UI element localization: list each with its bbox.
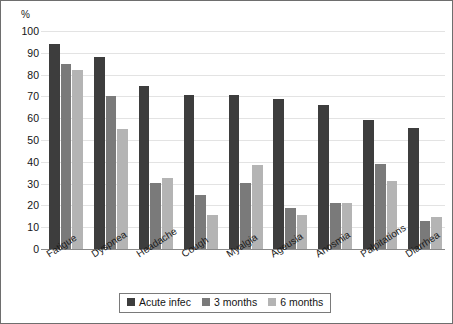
- legend-swatch-icon-1: [127, 298, 135, 306]
- y-axis-title: %: [21, 9, 30, 20]
- bar-group-cough: [184, 31, 219, 249]
- legend-item-2[interactable]: 3 months: [202, 297, 257, 308]
- y-axis-tick-labels: 0102030405060708090100: [1, 31, 39, 249]
- y-tick-label-10: 10: [5, 222, 39, 233]
- bar-fatigue-series-2: [61, 64, 72, 249]
- bar-anosmia-series-1: [318, 105, 329, 249]
- plot-area: [41, 31, 445, 249]
- y-tick-label-80: 80: [5, 69, 39, 80]
- y-tick-label-30: 30: [5, 178, 39, 189]
- bar-group-anosmia: [318, 31, 353, 249]
- y-tick-label-70: 70: [5, 91, 39, 102]
- y-tick-label-90: 90: [5, 48, 39, 59]
- legend-label-3: 6 months: [280, 297, 323, 308]
- bar-group-diarrhea: [408, 31, 443, 249]
- y-tick-label-100: 100: [5, 26, 39, 37]
- y-tick-label-0: 0: [5, 244, 39, 255]
- bar-group-myalgia: [229, 31, 264, 249]
- bar-group-fatigue: [49, 31, 84, 249]
- y-tick-label-50: 50: [5, 135, 39, 146]
- bars-layer: [41, 31, 445, 249]
- legend-item-3[interactable]: 6 months: [268, 297, 323, 308]
- bar-cough-series-1: [184, 95, 195, 249]
- y-tick-label-60: 60: [5, 113, 39, 124]
- bar-ageusia-series-1: [273, 99, 284, 249]
- chart-legend: Acute infec3 months6 months: [119, 293, 331, 313]
- bar-myalgia-series-1: [229, 95, 240, 249]
- bar-fatigue-series-1: [49, 44, 60, 249]
- bar-group-headache: [139, 31, 174, 249]
- bar-palpitations-series-1: [363, 120, 374, 249]
- bar-fatigue-series-3: [72, 70, 83, 249]
- bar-headache-series-1: [139, 86, 150, 250]
- x-axis-category-labels: FatigueDyspneaHeadacheCoughMyalgiaAgeusi…: [41, 251, 445, 295]
- bar-group-ageusia: [273, 31, 308, 249]
- bar-diarrhea-series-1: [408, 128, 419, 249]
- legend-label-2: 3 months: [214, 297, 257, 308]
- bar-dyspnea-series-1: [94, 57, 105, 249]
- legend-swatch-icon-3: [268, 298, 276, 306]
- legend-label-1: Acute infec: [139, 297, 191, 308]
- bar-chart-figure: % 0102030405060708090100 FatigueDyspneaH…: [0, 0, 453, 324]
- bar-group-palpitations: [363, 31, 398, 249]
- legend-item-1[interactable]: Acute infec: [127, 297, 191, 308]
- legend-swatch-icon-2: [202, 298, 210, 306]
- y-tick-label-20: 20: [5, 200, 39, 211]
- bar-dyspnea-series-2: [106, 96, 117, 249]
- y-tick-label-40: 40: [5, 157, 39, 168]
- bar-group-dyspnea: [94, 31, 129, 249]
